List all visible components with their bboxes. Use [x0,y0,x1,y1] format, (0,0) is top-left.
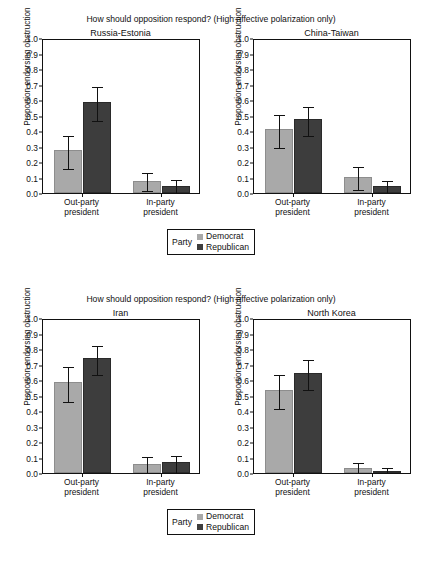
y-tick-label: 0.4 [237,408,249,416]
panel-north-korea: North KoreaProportion endorsing obstruct… [211,307,422,497]
legend-entry-democrat: Democrat [197,232,249,242]
legend-swatch-republican-icon [197,244,203,250]
error-bar-line [97,87,98,122]
error-bar-line [176,456,177,473]
y-tick-label: 0.9 [237,50,249,58]
cropped-header-text [0,0,422,7]
plot-area: Proportion endorsing obstruction0.00.10.… [211,319,422,497]
plot-area: Proportion endorsing obstruction0.00.10.… [0,319,211,497]
y-tick-label: 0.7 [26,361,38,369]
error-bar-cap-bottom [274,148,285,149]
error-bar-cap-top [274,115,285,116]
plot-box [42,39,200,194]
error-bar-line [68,136,69,169]
error-bar-cap-bottom [274,409,285,410]
y-axis-ticks: 0.00.10.20.30.40.50.60.70.80.91.0 [14,39,38,194]
y-tick-label: 0.3 [237,143,249,151]
error-bar-line [358,463,359,474]
x-tick-label: In-party president [337,478,407,497]
y-tick-label: 0.2 [26,159,38,167]
legend-entries: Democrat Republican [197,512,249,532]
y-tick-label: 1.0 [26,35,38,43]
y-tick-label: 0.5 [237,392,249,400]
error-bar-line [279,115,280,148]
x-axis-ticks: Out-party presidentIn-party president [253,474,411,500]
y-tick-label: 0.4 [237,128,249,136]
error-bar-cap-top [382,181,393,182]
x-tick-label: In-party president [337,198,407,217]
y-tick-label: 0.3 [26,423,38,431]
y-tick-label: 0.0 [26,190,38,198]
y-tick-label: 0.5 [26,392,38,400]
error-bar-cap-top [274,375,285,376]
x-tick-label: In-party president [126,478,196,497]
error-bar-cap-bottom [92,121,103,122]
y-tick-label: 0.0 [237,190,249,198]
legend-swatch-democrat-icon [197,514,203,520]
y-tick-label: 0.3 [237,423,249,431]
y-tick-label: 0.1 [26,454,38,462]
error-bar-cap-top [353,463,364,464]
legend-label-republican: Republican [206,243,249,253]
plot-box [253,319,411,474]
x-axis-ticks: Out-party presidentIn-party president [42,194,200,220]
error-bar-cap-top [142,173,153,174]
y-tick-label: 0.9 [26,50,38,58]
x-tick-label: Out-party president [47,198,117,217]
error-bar-cap-top [142,457,153,458]
y-tick-label: 0.9 [237,330,249,338]
y-tick-label: 1.0 [237,35,249,43]
y-tick-label: 1.0 [237,315,249,323]
x-axis-ticks: Out-party presidentIn-party president [253,194,411,220]
error-bar-cap-top [353,167,364,168]
legend-top: Party Democrat Republican [167,229,255,255]
y-tick-label: 1.0 [26,315,38,323]
legend-holder-top: Party Democrat Republican [0,229,422,255]
y-tick-label: 0.2 [26,439,38,447]
y-tick-label: 0.7 [237,81,249,89]
panel-russia-estonia: Russia-EstoniaProportion endorsing obstr… [0,27,211,217]
y-tick-label: 0.6 [237,377,249,385]
plot-area: Proportion endorsing obstruction0.00.10.… [211,39,422,217]
panel-china-taiwan: China-TaiwanProportion endorsing obstruc… [211,27,422,217]
legend-entry-republican: Republican [197,523,249,533]
legend-label-democrat: Democrat [206,512,243,522]
panel-iran: IranProportion endorsing obstruction0.00… [0,307,211,497]
x-tick-label: Out-party president [258,198,328,217]
legend-entries: Democrat Republican [197,232,249,252]
legend-bottom: Party Democrat Republican [167,509,255,535]
y-tick-label: 0.9 [26,330,38,338]
error-bar-line [358,167,359,190]
panel-row-top: Russia-EstoniaProportion endorsing obstr… [0,27,422,217]
legend-entry-democrat: Democrat [197,512,249,522]
error-bar-cap-bottom [63,169,74,170]
y-tick-label: 0.2 [237,159,249,167]
legend-entry-republican: Republican [197,243,249,253]
panel-row-bottom: IranProportion endorsing obstruction0.00… [0,307,422,497]
error-bar-line [279,375,280,409]
y-tick-label: 0.1 [237,454,249,462]
y-tick-label: 0.1 [237,174,249,182]
y-tick-label: 0.7 [237,361,249,369]
error-bar-cap-top [63,136,74,137]
error-bar-cap-top [382,468,393,469]
figure-block-top: How should opposition respond? (High aff… [0,14,422,255]
plot-box [253,39,411,194]
error-bar-cap-top [92,87,103,88]
error-bar-cap-bottom [142,191,153,192]
plot-area: Proportion endorsing obstruction0.00.10.… [0,39,211,217]
y-tick-label: 0.6 [26,377,38,385]
supertitle-top: How should opposition respond? (High aff… [0,14,422,25]
legend-title: Party [172,517,192,527]
y-tick-label: 0.6 [237,97,249,105]
error-bar-cap-bottom [353,190,364,191]
error-bar-line [387,181,388,194]
error-bar-line [68,367,69,403]
y-tick-label: 0.8 [237,346,249,354]
error-bar-line [308,360,309,389]
error-bar-cap-bottom [92,375,103,376]
error-bar-cap-top [171,456,182,457]
y-tick-label: 0.1 [26,174,38,182]
plot-box [42,319,200,474]
y-tick-label: 0.7 [26,81,38,89]
